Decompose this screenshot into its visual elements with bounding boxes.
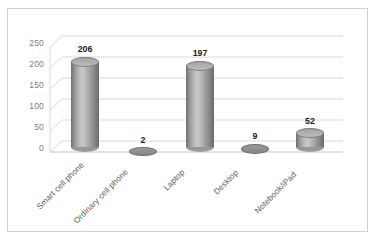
value-label-smart-cell-phone: 206 [65,44,105,54]
bar-desktop[interactable] [241,144,269,154]
ytick-label-150: 150 [18,80,44,90]
ytick-label-50: 50 [18,122,44,132]
value-label-desktop: 9 [235,131,275,141]
bar-notebook-ipad[interactable] [296,128,324,152]
bar-top-ellipse [296,128,324,138]
value-label-notebook-ipad: 52 [290,116,330,126]
bar-top-ellipse [186,61,214,71]
bar-ordinary-cell-phone[interactable] [129,147,157,156]
bar-laptop[interactable] [186,61,214,152]
bar-smart-cell-phone[interactable] [71,57,99,152]
bar-chart-plot-area: 0 50 100 150 200 250 206 2 197 9 52 Smar… [0,0,375,239]
bar-body [71,62,99,147]
value-label-laptop: 197 [180,48,220,58]
ytick-label-250: 250 [18,38,44,48]
ytick-label-100: 100 [18,101,44,111]
bar-top-ellipse [71,57,99,67]
bar-body [186,66,214,147]
ytick-label-200: 200 [18,59,44,69]
value-label-ordinary-cell-phone: 2 [123,135,163,145]
ytick-label-0: 0 [18,143,44,153]
